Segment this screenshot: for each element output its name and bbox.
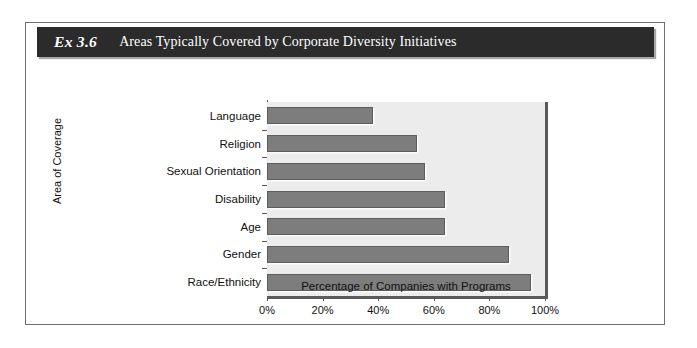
y-axis-title: Area of Coverage: [51, 86, 63, 236]
x-axis-tick-label: 40%: [348, 304, 408, 316]
x-axis-tick: [489, 296, 490, 301]
bar-sexual-orientation: [267, 163, 425, 180]
y-axis-tick: [262, 241, 267, 242]
bar-language: [267, 107, 373, 124]
x-axis-tick: [434, 296, 435, 301]
bar-gender: [267, 246, 509, 263]
exhibit-figure: Ex 3.6 Areas Typically Covered by Corpor…: [25, 22, 665, 325]
y-axis-tick: [262, 268, 267, 269]
x-axis-tick: [545, 296, 546, 301]
bar-religion: [267, 135, 417, 152]
y-axis-tick: [262, 213, 267, 214]
bar-chart: Area of Coverage LanguageReligionSexual …: [26, 59, 666, 325]
x-axis-tick-label: 80%: [459, 304, 519, 316]
y-axis-tick: [262, 185, 267, 186]
exhibit-header-bar: Ex 3.6 Areas Typically Covered by Corpor…: [37, 27, 654, 57]
y-axis-tick: [262, 157, 267, 158]
bar-age: [267, 218, 445, 235]
bar-disability: [267, 191, 445, 208]
x-axis-tick: [323, 296, 324, 301]
y-axis-tick: [262, 130, 267, 131]
x-axis-tick-label: 100%: [515, 304, 575, 316]
x-axis-tick-label: 60%: [404, 304, 464, 316]
exhibit-number: Ex 3.6: [54, 33, 97, 51]
x-axis-title: Percentage of Companies with Programs: [267, 280, 545, 292]
x-axis-tick: [378, 296, 379, 301]
x-axis-tick-label: 0%: [237, 304, 297, 316]
y-axis-tick-labels: LanguageReligionSexual OrientationDisabi…: [101, 102, 261, 296]
exhibit-title: Areas Typically Covered by Corporate Div…: [119, 34, 456, 50]
plot-area: 0%20%40%60%80%100%: [267, 102, 548, 299]
x-axis-tick: [267, 296, 268, 301]
x-axis-tick-label: 20%: [293, 304, 353, 316]
